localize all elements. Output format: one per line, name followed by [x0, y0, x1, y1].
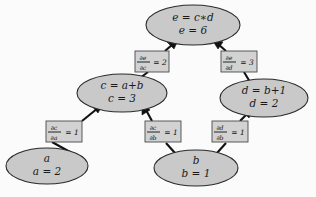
node-d-value: d = 2 — [250, 97, 279, 109]
deriv-label-de-dd-value: = 3 — [240, 58, 254, 67]
edge-b-to-d-lower-segment — [217, 143, 226, 153]
node-a-value: a = 2 — [33, 165, 62, 177]
node-c[interactable]: c = a+b c = 3 — [77, 74, 167, 112]
deriv-label-de-dd-numerator: ∂e — [226, 54, 233, 61]
node-e[interactable]: e = c∗d e = 6 — [146, 5, 240, 45]
deriv-label-dc-da-numerator: ∂c — [51, 124, 58, 131]
node-b[interactable]: b b = 1 — [154, 150, 238, 186]
node-d[interactable]: d = b+1 d = 2 — [220, 79, 308, 117]
deriv-label-dc-db[interactable]: ∂c ∂b = 1 — [145, 121, 181, 142]
deriv-label-dd-db-denominator: ∂b — [216, 134, 223, 141]
diagram-canvas: e = c∗d e = 6 c = a+b c = 3 d = b+1 d = … — [0, 0, 316, 197]
node-d-expression: d = b+1 — [242, 84, 286, 96]
node-c-expression: c = a+b — [100, 79, 143, 91]
node-b-value: b = 1 — [182, 167, 211, 179]
deriv-label-dc-db-denominator: ∂b — [149, 134, 156, 141]
computational-graph: e = c∗d e = 6 c = a+b c = 3 d = b+1 d = … — [0, 0, 316, 197]
deriv-label-dd-db-numerator: ∂d — [216, 124, 223, 131]
deriv-label-de-dc[interactable]: ∂e ∂c = 2 — [135, 51, 169, 72]
deriv-label-dd-db-value: = 1 — [231, 128, 244, 137]
deriv-label-dc-da-value: = 1 — [65, 128, 78, 137]
deriv-label-de-dd-denominator: ∂d — [225, 64, 232, 71]
node-b-expression: b — [193, 154, 200, 166]
node-e-expression: e = c∗d — [172, 11, 214, 23]
edge-b-to-c-lower-segment — [166, 143, 175, 153]
node-e-value: e = 6 — [179, 24, 208, 36]
deriv-label-de-dc-value: = 2 — [153, 58, 167, 67]
deriv-label-de-dc-denominator: ∂c — [140, 64, 147, 71]
deriv-label-dc-da-denominator: ∂a — [51, 134, 58, 141]
node-a-expression: a — [44, 152, 50, 164]
deriv-label-de-dd[interactable]: ∂e ∂d = 3 — [221, 51, 257, 72]
deriv-label-dc-db-numerator: ∂c — [150, 124, 157, 131]
node-a[interactable]: a a = 2 — [6, 148, 88, 184]
deriv-label-de-dc-numerator: ∂e — [140, 54, 147, 61]
deriv-label-dc-db-value: = 1 — [164, 128, 177, 137]
node-c-value: c = 3 — [108, 92, 136, 104]
deriv-label-dc-da[interactable]: ∂c ∂a = 1 — [46, 121, 82, 142]
deriv-label-dd-db[interactable]: ∂d ∂b = 1 — [212, 121, 248, 142]
